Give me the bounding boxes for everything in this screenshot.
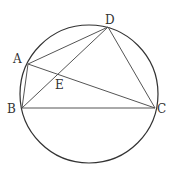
- label-B: B: [7, 102, 16, 116]
- segments: [22, 27, 155, 108]
- segment-AC: [28, 64, 155, 108]
- label-E: E: [55, 78, 64, 92]
- label-C: C: [157, 102, 166, 116]
- label-A: A: [12, 52, 22, 66]
- segment-BD: [22, 27, 108, 108]
- circumcircle: [20, 25, 158, 163]
- segment-AB: [22, 64, 28, 108]
- geometry-diagram: A B C D E: [0, 0, 176, 173]
- label-D: D: [105, 13, 115, 27]
